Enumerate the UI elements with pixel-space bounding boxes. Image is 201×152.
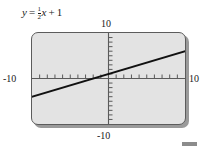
equation-caption: y=12x+1 xyxy=(22,6,62,22)
plot-area xyxy=(32,33,185,124)
equation-variable: x xyxy=(42,6,47,18)
equation-equals: = xyxy=(27,6,37,18)
fraction-denominator: 2 xyxy=(38,13,42,21)
equation-plus: + xyxy=(47,6,57,18)
equation-constant: 1 xyxy=(57,6,63,18)
graphing-calculator-screen xyxy=(31,32,186,125)
window-label-ymin: -10 xyxy=(97,131,110,141)
fraction-numerator: 1 xyxy=(38,6,42,13)
equation-fraction: 12 xyxy=(38,6,42,22)
page-marker xyxy=(182,142,197,146)
window-label-xmin: -10 xyxy=(3,74,16,84)
window-label-xmax: 10 xyxy=(189,74,199,84)
window-label-ymax: 10 xyxy=(101,19,111,29)
